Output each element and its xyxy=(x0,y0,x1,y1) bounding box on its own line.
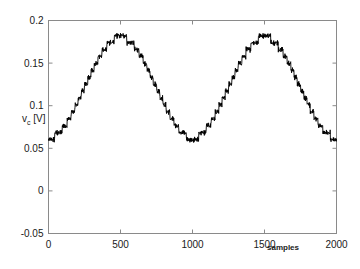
y-tick-label: 0.2 xyxy=(30,15,44,26)
x-tick-label: 500 xyxy=(112,239,129,250)
plot-canvas: -0.0500.050.10.150.2 0500100015002000 vc… xyxy=(0,0,360,269)
x-tick-label: 1000 xyxy=(181,239,204,250)
y-tick-label: 0.15 xyxy=(24,58,44,69)
x-axis-title: samples xyxy=(267,243,300,252)
chart-figure: -0.0500.050.10.150.2 0500100015002000 vc… xyxy=(0,0,360,269)
y-tick-label: -0.05 xyxy=(21,228,44,239)
x-tick-label: 0 xyxy=(46,239,52,250)
x-tick-label: 2000 xyxy=(325,239,348,250)
y-tick-label: 0 xyxy=(38,185,44,196)
figure-background xyxy=(0,0,360,269)
y-axis-title: vc [V] xyxy=(22,113,46,126)
y-tick-label: 0.1 xyxy=(30,100,44,111)
y-tick-label: 0.05 xyxy=(24,143,44,154)
